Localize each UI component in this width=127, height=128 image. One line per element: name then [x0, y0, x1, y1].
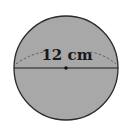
diagram-canvas: 12 cm — [0, 0, 127, 128]
circle-diagram: 12 cm — [0, 0, 127, 128]
diameter-label: 12 cm — [41, 46, 92, 64]
center-point — [64, 66, 67, 69]
